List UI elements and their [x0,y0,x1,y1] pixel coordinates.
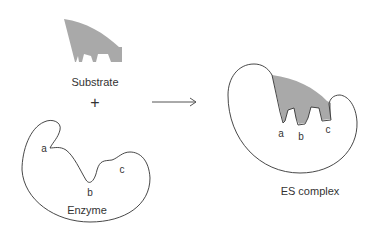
enzyme-substrate-diagram: Substrate + a b c Enzyme a b c ES comple… [0,0,379,243]
enzyme-site-a: a [41,143,47,154]
es-site-a: a [278,128,284,139]
es-site-b: b [298,131,304,142]
enzyme-label: Enzyme [67,204,107,216]
enzyme-site-b: b [87,187,93,198]
substrate-label: Substrate [71,76,118,88]
es-complex-shape [228,64,357,173]
plus-sign: + [90,94,99,111]
substrate-shape [64,19,122,62]
es-complex-label: ES complex [281,185,340,197]
enzyme-site-c: c [120,164,125,175]
es-site-c: c [326,124,331,135]
reaction-arrow-icon [152,98,196,106]
